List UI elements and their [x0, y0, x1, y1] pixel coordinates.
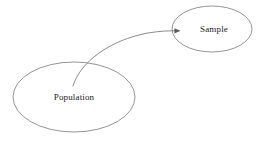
arrow-population-to-sample: [73, 31, 179, 86]
diagram-canvas: Population Sample: [0, 0, 261, 146]
node-label-population: Population: [54, 92, 95, 102]
arrowhead-icon: [174, 28, 180, 33]
diagram-svg: Population Sample: [0, 0, 261, 146]
node-label-sample: Sample: [200, 24, 228, 34]
